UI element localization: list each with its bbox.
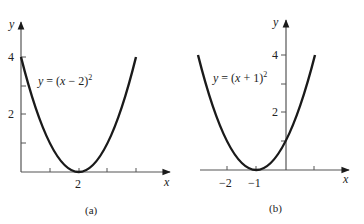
y-axis-label: y bbox=[272, 15, 279, 29]
panel-b: y x 4 2 −2 −1 y = (x + 1)2 (b) bbox=[198, 15, 349, 215]
x-tick-label-neg1: −1 bbox=[248, 176, 261, 190]
y-ticks bbox=[281, 55, 286, 141]
y-tick-label-4: 4 bbox=[8, 50, 14, 64]
caption-a: (a) bbox=[85, 204, 98, 217]
x-tick-label-neg2: −2 bbox=[219, 176, 232, 190]
caption-b: (b) bbox=[269, 202, 282, 215]
figure: y x 4 2 2 y = (x − 2)2 (a) y x 4 2 −2 −1 bbox=[0, 0, 364, 224]
equation-label: y = (x + 1)2 bbox=[212, 70, 267, 85]
y-axis-label: y bbox=[8, 17, 15, 31]
panel-a: y x 4 2 2 y = (x − 2)2 (a) bbox=[8, 17, 170, 217]
x-axis-label: x bbox=[163, 175, 170, 189]
y-tick-label-4: 4 bbox=[272, 48, 278, 62]
equation-label: y = (x − 2)2 bbox=[37, 73, 92, 88]
x-tick-label-2: 2 bbox=[75, 177, 81, 191]
y-tick-label-2: 2 bbox=[8, 107, 14, 121]
y-tick-label-2: 2 bbox=[272, 105, 278, 119]
x-axis-label: x bbox=[342, 172, 349, 186]
